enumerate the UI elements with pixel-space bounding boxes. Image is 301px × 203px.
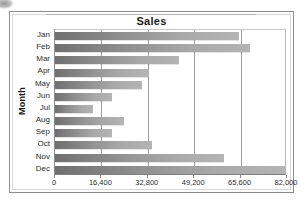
y-axis-tick-label: Jun xyxy=(27,90,53,102)
bar-row xyxy=(55,66,285,78)
bar-may[interactable] xyxy=(55,81,142,89)
x-axis-tick-labels: 016,40032,80049,20065,60082,000 xyxy=(54,178,286,190)
plot-area xyxy=(54,29,286,175)
y-axis-title: Month xyxy=(17,77,27,125)
y-axis-tick-label: Apr xyxy=(27,65,53,77)
chart-title: Sales xyxy=(10,15,293,27)
x-axis-tick-label: 0 xyxy=(52,178,56,187)
bar-row xyxy=(55,79,285,91)
y-axis-tick-label: May xyxy=(27,78,53,90)
y-axis-tick-label: Jul xyxy=(27,102,53,114)
bar-feb[interactable] xyxy=(55,44,250,52)
x-axis-tick-label: 32,800 xyxy=(135,178,158,187)
bar-row xyxy=(55,164,285,176)
bar-dec[interactable] xyxy=(55,166,285,174)
scan-artifact xyxy=(0,0,14,9)
bar-jun[interactable] xyxy=(55,93,112,101)
bar-series xyxy=(55,30,285,174)
bar-row xyxy=(55,103,285,115)
bar-nov[interactable] xyxy=(55,154,224,162)
bar-row xyxy=(55,139,285,151)
y-axis-tick-label: Aug xyxy=(27,114,53,126)
x-axis-tick-label: 82,000 xyxy=(275,178,298,187)
bar-row xyxy=(55,54,285,66)
bar-mar[interactable] xyxy=(55,56,179,64)
bar-row xyxy=(55,91,285,103)
bar-jul[interactable] xyxy=(55,105,93,113)
y-axis-tick-label: Mar xyxy=(27,53,53,65)
x-axis-tick-label: 65,600 xyxy=(228,178,251,187)
bar-row xyxy=(55,115,285,127)
bar-apr[interactable] xyxy=(55,69,149,77)
y-axis-tick-label: Nov xyxy=(27,151,53,163)
bar-row xyxy=(55,152,285,164)
y-axis-tick-label: Sep xyxy=(27,126,53,138)
y-axis-tick-label: Dec xyxy=(27,163,53,175)
y-axis-tick-label: Jan xyxy=(27,29,53,41)
bar-row xyxy=(55,127,285,139)
bar-aug[interactable] xyxy=(55,117,124,125)
y-axis-tick-labels: Jan Feb Mar Apr May Jun Jul Aug Sep Oct … xyxy=(27,29,53,175)
bar-oct[interactable] xyxy=(55,141,152,149)
x-axis-tick-label: 49,200 xyxy=(182,178,205,187)
bar-row xyxy=(55,42,285,54)
y-axis-tick-label: Oct xyxy=(27,138,53,150)
chart-figure-frame: Sales Month Jan Feb Mar Apr May Jun Jul … xyxy=(9,11,294,193)
x-axis-tick-label: 16,400 xyxy=(89,178,112,187)
y-axis-tick-label: Feb xyxy=(27,41,53,53)
bar-row xyxy=(55,30,285,42)
bar-sep[interactable] xyxy=(55,129,112,137)
bar-jan[interactable] xyxy=(55,32,239,40)
